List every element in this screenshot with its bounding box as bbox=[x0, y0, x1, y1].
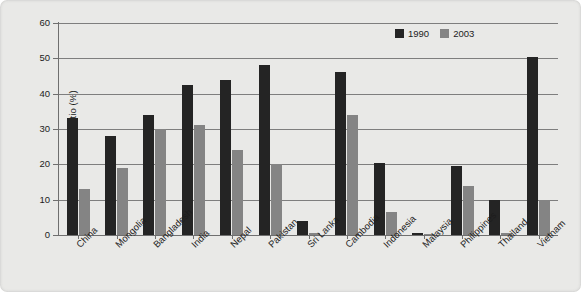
bar-1990 bbox=[182, 85, 193, 235]
legend-item-2003: 2003 bbox=[440, 28, 474, 39]
chart-legend: 1990 2003 bbox=[395, 28, 474, 39]
y-tick-label: 60 bbox=[16, 17, 50, 28]
bar-2003 bbox=[79, 189, 90, 235]
bar-group bbox=[335, 23, 358, 235]
bar-2003 bbox=[347, 115, 358, 235]
bar-2003 bbox=[501, 233, 512, 235]
bar-2003 bbox=[232, 150, 243, 235]
bar-group bbox=[451, 23, 474, 235]
bar-group bbox=[67, 23, 90, 235]
bar-2003 bbox=[155, 129, 166, 235]
bar-1990 bbox=[67, 118, 78, 235]
legend-item-1990: 1990 bbox=[395, 28, 429, 39]
bar-1990 bbox=[374, 163, 385, 235]
bar-group bbox=[374, 23, 397, 235]
bar-group bbox=[489, 23, 512, 235]
bar-2003 bbox=[194, 125, 205, 235]
bar-1990 bbox=[335, 72, 346, 235]
bar-group bbox=[259, 23, 282, 235]
y-tick-label: 40 bbox=[16, 88, 50, 99]
bar-2003 bbox=[424, 234, 435, 235]
bar-2003 bbox=[539, 200, 550, 235]
bar-group bbox=[220, 23, 243, 235]
bar-group bbox=[527, 23, 550, 235]
bar-1990 bbox=[412, 233, 423, 235]
bar-1990 bbox=[143, 115, 154, 235]
legend-label-2003: 2003 bbox=[453, 28, 474, 39]
bar-group bbox=[105, 23, 128, 235]
bar-1990 bbox=[220, 80, 231, 235]
legend-swatch-2003 bbox=[440, 29, 449, 38]
bar-2003 bbox=[271, 164, 282, 235]
bar-group bbox=[143, 23, 166, 235]
y-tick-label: 0 bbox=[16, 229, 50, 240]
bar-1990 bbox=[259, 65, 270, 235]
bar-1990 bbox=[297, 221, 308, 235]
bar-group bbox=[182, 23, 205, 235]
y-tick-label: 50 bbox=[16, 52, 50, 63]
bar-group bbox=[297, 23, 320, 235]
bar-2003 bbox=[309, 233, 320, 235]
y-tick-label: 10 bbox=[16, 194, 50, 205]
plot-area bbox=[59, 23, 558, 235]
gridline bbox=[59, 235, 558, 236]
bar-group bbox=[412, 23, 435, 235]
y-tick-label: 20 bbox=[16, 158, 50, 169]
chart-figure: Headcount ratio (%) 0102030405060 ChinaM… bbox=[0, 0, 581, 292]
bar-2003 bbox=[463, 186, 474, 235]
y-tick-label: 30 bbox=[16, 123, 50, 134]
bar-1990 bbox=[527, 57, 538, 235]
legend-label-1990: 1990 bbox=[408, 28, 429, 39]
bar-2003 bbox=[117, 168, 128, 235]
bar-2003 bbox=[386, 212, 397, 235]
bar-1990 bbox=[489, 200, 500, 235]
bar-1990 bbox=[105, 136, 116, 235]
bar-1990 bbox=[451, 166, 462, 235]
legend-swatch-1990 bbox=[395, 29, 404, 38]
